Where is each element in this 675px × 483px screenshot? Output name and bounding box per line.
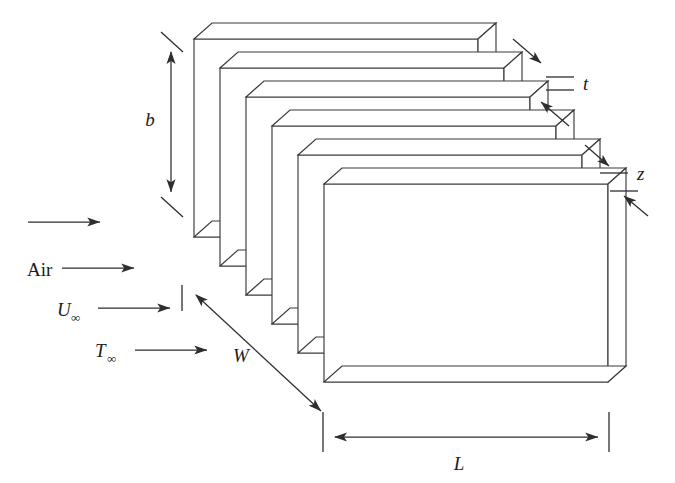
temperature-label-group: T ∞	[95, 340, 116, 366]
dimension-label-z: z	[636, 163, 645, 184]
plate-6	[324, 168, 626, 382]
temperature-label: T	[95, 340, 107, 361]
dimension-l: L	[323, 412, 609, 474]
fluid-label: Air	[27, 259, 53, 280]
fluid-annotations: Air U ∞ T ∞	[27, 259, 116, 366]
figure-root: b W L t z	[0, 0, 675, 483]
velocity-label-group: U ∞	[57, 299, 80, 325]
dimension-label-w: W	[233, 345, 251, 366]
flow-arrow-group	[28, 222, 207, 350]
dimension-label-l: L	[453, 453, 465, 474]
dimension-label-t: t	[583, 73, 589, 94]
velocity-label: U	[57, 299, 72, 320]
dimension-b: b	[145, 32, 183, 217]
b-tick-top	[161, 32, 183, 52]
dimension-label-b: b	[145, 109, 155, 130]
b-tick-bottom	[161, 197, 183, 217]
z-arrow-lower	[624, 196, 648, 216]
velocity-subscript: ∞	[71, 310, 80, 325]
temperature-subscript: ∞	[107, 351, 116, 366]
plate-stack-diagram: b W L t z	[0, 0, 675, 483]
